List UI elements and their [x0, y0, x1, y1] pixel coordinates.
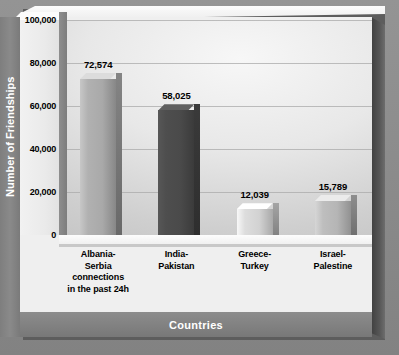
- bar-top-face: [237, 203, 273, 209]
- y-axis-tick-label: 40,000: [30, 144, 56, 154]
- bar-top-face: [158, 104, 194, 110]
- bars-group: 72,57458,02512,03915,789: [59, 20, 372, 235]
- x-category-labels: Albania-Serbiaconnectionsin the past 24h…: [59, 249, 372, 311]
- x-category-label-line: Greece-: [216, 249, 294, 261]
- bar-front-face: [80, 79, 116, 235]
- bar[interactable]: 72,574: [80, 79, 116, 235]
- x-category-label: Albania-Serbiaconnectionsin the past 24h: [59, 249, 137, 295]
- y-axis-title: Number of Friendships: [0, 17, 20, 257]
- bar[interactable]: 58,025: [158, 110, 194, 235]
- x-axis-title: Countries: [169, 319, 223, 331]
- x-axis-title-strip: Countries: [20, 312, 372, 337]
- x-category-label: Greece-Turkey: [216, 249, 294, 272]
- x-category-label-line: Israel-: [294, 249, 372, 261]
- bar-value-label: 15,789: [319, 181, 347, 192]
- x-category-label-line: connections: [59, 272, 137, 284]
- card-right-bevel: [371, 17, 385, 339]
- y-axis-tick-label: 20,000: [30, 187, 56, 197]
- bar[interactable]: 15,789: [315, 201, 351, 235]
- baseline-shelf-front: [59, 244, 372, 247]
- x-category-label: Israel-Palestine: [294, 249, 372, 272]
- bar-front-face: [237, 209, 273, 235]
- x-category-label-line: Turkey: [216, 261, 294, 273]
- chart-container: 020,00040,00060,00080,000100,000 72,5745…: [0, 0, 399, 355]
- bar-side-face: [194, 104, 200, 235]
- y-axis-tick-label: 60,000: [30, 101, 56, 111]
- bar-top-face: [80, 73, 116, 79]
- x-category-label-line: Albania-: [59, 249, 137, 261]
- x-category-label: India-Pakistan: [137, 249, 215, 272]
- bar-front-face: [315, 201, 351, 235]
- bar-top-face: [315, 195, 351, 201]
- x-category-label-line: Serbia: [59, 261, 137, 273]
- baseline-shelf: [59, 235, 372, 244]
- x-category-label-line: Pakistan: [137, 261, 215, 273]
- bar-side-face: [351, 195, 357, 235]
- y-axis-tick-label: 0: [51, 230, 56, 240]
- bar[interactable]: 12,039: [237, 209, 273, 235]
- bar-value-label: 58,025: [162, 90, 190, 101]
- y-axis-title-strip: Number of Friendships: [0, 17, 20, 337]
- bar-value-label: 72,574: [84, 59, 112, 70]
- x-category-label-line: Palestine: [294, 261, 372, 273]
- bar-side-face: [116, 73, 122, 235]
- y-axis-tick-label: 80,000: [30, 58, 56, 68]
- bar-front-face: [158, 110, 194, 235]
- y-axis-tick-label: 100,000: [25, 15, 56, 25]
- bar-value-label: 12,039: [240, 189, 268, 200]
- x-category-label-line: India-: [137, 249, 215, 261]
- x-category-label-line: in the past 24h: [59, 284, 137, 296]
- bar-side-face: [273, 203, 279, 235]
